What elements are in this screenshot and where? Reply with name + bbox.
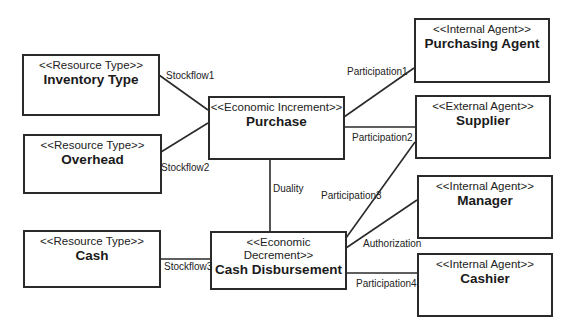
stereotype-label: <<Economic Decrement>> bbox=[212, 236, 345, 262]
class-name: Supplier bbox=[417, 113, 549, 129]
edge-label-participation1: Participation1 bbox=[347, 66, 408, 77]
class-box-cashier[interactable]: <<Internal Agent>> Cashier bbox=[417, 253, 553, 317]
edge-label-participation2: Participation2 bbox=[352, 132, 413, 143]
edge-stockflow2 bbox=[161, 123, 208, 152]
stereotype-label: <<Resource Type>> bbox=[24, 59, 158, 72]
class-name: Inventory Type bbox=[24, 72, 158, 88]
stereotype-label: <<Resource Type>> bbox=[25, 235, 159, 248]
edge-label-participation4: Participation4 bbox=[356, 278, 417, 289]
stereotype-label: <<Internal Agent>> bbox=[419, 180, 551, 193]
stereotype-label: <<Economic Increment>> bbox=[210, 101, 343, 114]
class-name: Purchasing Agent bbox=[416, 36, 548, 52]
stereotype-label: <<Resource Type>> bbox=[25, 139, 160, 152]
edge-label-authorization: Authorization bbox=[363, 238, 421, 249]
stereotype-label: <<Internal Agent>> bbox=[416, 23, 548, 36]
class-box-cash-disbursement[interactable]: <<Economic Decrement>> Cash Disbursement bbox=[210, 231, 347, 290]
stereotype-label: <<External Agent>> bbox=[417, 100, 549, 113]
stereotype-label: <<Internal Agent>> bbox=[419, 258, 551, 271]
class-box-cash[interactable]: <<Resource Type>> Cash bbox=[23, 230, 161, 288]
edge-label-participation3: Participation3 bbox=[321, 190, 382, 201]
class-name: Manager bbox=[419, 193, 551, 209]
edge-label-stockflow2: Stockflow2 bbox=[161, 162, 209, 173]
class-box-manager[interactable]: <<Internal Agent>> Manager bbox=[417, 175, 553, 239]
class-name: Overhead bbox=[25, 152, 160, 168]
rea-diagram-canvas: <<Resource Type>> Inventory Type <<Resou… bbox=[0, 0, 573, 332]
class-box-inventory-type[interactable]: <<Resource Type>> Inventory Type bbox=[22, 54, 160, 116]
edge-label-duality: Duality bbox=[273, 183, 304, 194]
class-box-purchasing-agent[interactable]: <<Internal Agent>> Purchasing Agent bbox=[414, 18, 550, 83]
edge-label-stockflow3: Stockflow3 bbox=[164, 261, 212, 272]
class-name: Purchase bbox=[210, 114, 343, 130]
class-name: Cash Disbursement bbox=[212, 262, 345, 278]
class-name: Cashier bbox=[419, 271, 551, 287]
edge-label-stockflow1: Stockflow1 bbox=[166, 70, 214, 81]
class-box-overhead[interactable]: <<Resource Type>> Overhead bbox=[23, 134, 162, 194]
class-box-purchase[interactable]: <<Economic Increment>> Purchase bbox=[208, 96, 345, 160]
class-box-supplier[interactable]: <<External Agent>> Supplier bbox=[415, 95, 551, 159]
class-name: Cash bbox=[25, 248, 159, 264]
